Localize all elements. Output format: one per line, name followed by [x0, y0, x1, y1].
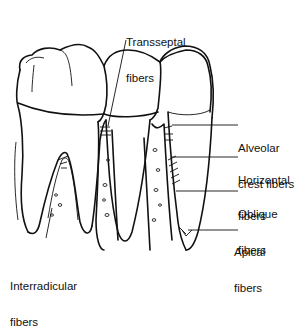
molar-tooth: [15, 44, 107, 233]
label-transseptal-fibers: Transseptal fibers: [126, 12, 186, 96]
label-interradicular-fibers: Interradicular fibers: [10, 256, 77, 330]
alveolar-bone: [51, 122, 173, 250]
label-apical-fibers: Apical fibers: [234, 222, 265, 306]
